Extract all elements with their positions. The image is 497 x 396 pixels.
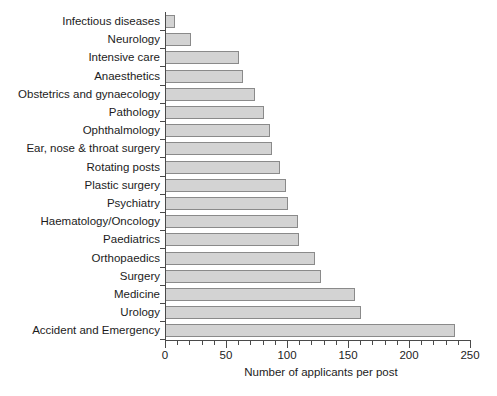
- bar: [165, 15, 175, 28]
- bar-row: Haematology/Oncology: [165, 212, 470, 231]
- x-axis-minor-tick: [336, 341, 337, 345]
- y-axis-tick: [160, 212, 165, 213]
- category-label: Surgery: [120, 267, 160, 286]
- x-tick-label: 50: [220, 349, 233, 361]
- y-axis-line: [165, 12, 166, 341]
- x-axis-major-tick: [287, 341, 288, 348]
- category-label: Haematology/Oncology: [40, 212, 160, 231]
- bar: [165, 215, 298, 228]
- bar: [165, 142, 272, 155]
- x-tick-label: 100: [277, 349, 296, 361]
- x-axis-minor-tick: [360, 341, 361, 345]
- x-axis-minor-tick: [385, 341, 386, 345]
- bar-row: Infectious diseases: [165, 12, 470, 31]
- category-label: Ophthalmology: [83, 121, 160, 140]
- plot-area: Infectious diseasesNeurologyIntensive ca…: [165, 12, 470, 340]
- bar: [165, 124, 270, 137]
- bar: [165, 70, 243, 83]
- bar-row: Intensive care: [165, 48, 470, 67]
- category-label: Urology: [120, 303, 160, 322]
- x-axis-minor-tick: [202, 341, 203, 345]
- x-tick-label: 200: [399, 349, 418, 361]
- category-label: Neurology: [108, 30, 160, 49]
- y-axis-tick: [160, 103, 165, 104]
- y-axis-tick: [160, 66, 165, 67]
- y-axis-tick: [160, 248, 165, 249]
- bar-row: Ear, nose & throat surgery: [165, 139, 470, 158]
- y-axis-tick: [160, 30, 165, 31]
- bar: [165, 252, 315, 265]
- y-axis-tick: [160, 121, 165, 122]
- bar: [165, 306, 361, 319]
- x-axis-minor-tick: [372, 341, 373, 345]
- bar-row: Medicine: [165, 285, 470, 304]
- bar: [165, 324, 455, 337]
- category-label: Ear, nose & throat surgery: [26, 139, 160, 158]
- bar-row: Anaesthetics: [165, 67, 470, 86]
- y-axis-tick: [160, 48, 165, 49]
- x-axis-minor-tick: [250, 341, 251, 345]
- category-label: Orthopaedics: [92, 249, 160, 268]
- y-axis-tick: [160, 157, 165, 158]
- x-axis-minor-tick: [238, 341, 239, 345]
- y-axis-tick: [160, 267, 165, 268]
- y-axis-tick: [160, 230, 165, 231]
- bar: [165, 197, 288, 210]
- category-label: Accident and Emergency: [32, 321, 160, 340]
- bar-row: Urology: [165, 303, 470, 322]
- bar: [165, 288, 355, 301]
- x-axis-major-tick: [348, 341, 349, 348]
- bar-row: Obstetrics and gynaecology: [165, 85, 470, 104]
- x-axis-minor-tick: [324, 341, 325, 345]
- x-tick-label: 250: [460, 349, 479, 361]
- bar: [165, 51, 239, 64]
- bar-row: Surgery: [165, 267, 470, 286]
- category-label: Medicine: [114, 285, 160, 304]
- x-axis-major-tick: [409, 341, 410, 348]
- category-label: Infectious diseases: [62, 12, 160, 31]
- category-label: Paediatrics: [103, 230, 160, 249]
- x-axis-minor-tick: [421, 341, 422, 345]
- x-axis-major-tick: [470, 341, 471, 348]
- category-label: Pathology: [109, 103, 160, 122]
- x-axis-title: Number of applicants per post: [0, 366, 497, 378]
- y-axis-tick: [160, 85, 165, 86]
- x-axis-minor-tick: [177, 341, 178, 345]
- x-tick-label: 0: [162, 349, 168, 361]
- bar-row: Neurology: [165, 30, 470, 49]
- x-axis-minor-tick: [275, 341, 276, 345]
- x-axis-minor-tick: [458, 341, 459, 345]
- category-label: Intensive care: [88, 48, 160, 67]
- bar-row: Paediatrics: [165, 230, 470, 249]
- x-axis-minor-tick: [446, 341, 447, 345]
- x-axis-title-text: Number of applicants per post: [244, 366, 397, 378]
- bar-row: Plastic surgery: [165, 176, 470, 195]
- x-axis-minor-tick: [311, 341, 312, 345]
- y-axis-tick: [160, 321, 165, 322]
- x-axis-major-tick: [226, 341, 227, 348]
- x-tick-label: 150: [338, 349, 357, 361]
- bar-chart: Infectious diseasesNeurologyIntensive ca…: [0, 0, 497, 396]
- x-axis-line: [165, 340, 471, 341]
- x-axis-minor-tick: [299, 341, 300, 345]
- bar: [165, 233, 299, 246]
- bar: [165, 106, 264, 119]
- category-label: Rotating posts: [86, 158, 160, 177]
- category-label: Plastic surgery: [85, 176, 160, 195]
- bar-row: Ophthalmology: [165, 121, 470, 140]
- x-axis-minor-tick: [214, 341, 215, 345]
- y-axis-tick: [160, 303, 165, 304]
- bar-row: Orthopaedics: [165, 249, 470, 268]
- x-axis-major-tick: [165, 341, 166, 348]
- x-axis-minor-tick: [189, 341, 190, 345]
- y-axis-tick: [160, 194, 165, 195]
- bar: [165, 33, 191, 46]
- bar-row: Psychiatry: [165, 194, 470, 213]
- bar-row: Pathology: [165, 103, 470, 122]
- category-label: Psychiatry: [107, 194, 160, 213]
- category-label: Anaesthetics: [94, 67, 160, 86]
- bar: [165, 270, 321, 283]
- x-axis-minor-tick: [263, 341, 264, 345]
- bar: [165, 88, 255, 101]
- y-axis-tick: [160, 139, 165, 140]
